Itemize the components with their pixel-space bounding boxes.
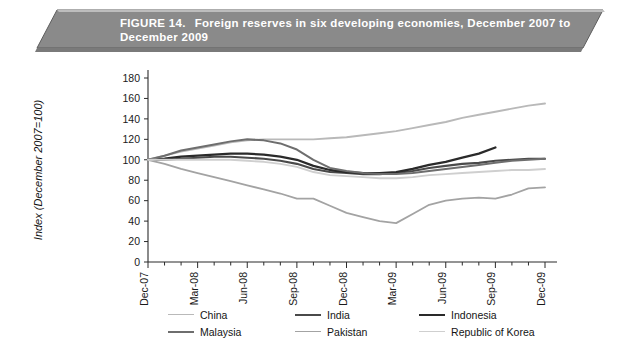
y-tick-label: 120: [122, 133, 140, 145]
y-axis-title: Index (December 2007=100): [32, 99, 44, 240]
legend-item-china: China: [168, 309, 295, 321]
chart-plot-region: 020406080100120140160180Dec-07Mar-08Jun-…: [0, 60, 623, 310]
x-tick-label: Mar-09: [386, 272, 398, 305]
y-tick-label: 140: [122, 113, 140, 125]
x-tick-label: Dec-09: [535, 272, 547, 306]
y-tick-label: 180: [122, 72, 140, 84]
legend-item-indonesia: Indonesia: [419, 309, 568, 321]
legend-item-malaysia: Malaysia: [168, 326, 295, 338]
legend-swatch-icon: [295, 331, 321, 332]
legend-label: Pakistan: [327, 326, 367, 338]
legend-label: India: [327, 309, 350, 321]
x-tick-label: Dec-08: [337, 272, 349, 306]
legend-swatch-icon: [168, 331, 194, 333]
legend-item-republic-of-korea: Republic of Korea: [419, 326, 568, 338]
banner-text: FIGURE 14.Foreign reserves in six develo…: [120, 16, 580, 44]
line-chart: 020406080100120140160180Dec-07Mar-08Jun-…: [0, 60, 623, 310]
legend-row: ChinaIndiaIndonesia: [168, 306, 568, 323]
legend-swatch-icon: [295, 314, 321, 316]
y-tick-label: 60: [128, 194, 140, 206]
y-tick-label: 80: [128, 174, 140, 186]
legend-label: China: [200, 309, 227, 321]
series-line-pakistan: [148, 160, 545, 223]
x-tick-label: Jun-08: [237, 272, 249, 304]
legend-label: Republic of Korea: [451, 326, 534, 338]
legend-label: Malaysia: [200, 326, 241, 338]
y-tick-label: 20: [128, 235, 140, 247]
x-tick-label: Sep-09: [485, 272, 497, 306]
y-tick-label: 100: [122, 154, 140, 166]
x-tick-label: Dec-07: [138, 272, 150, 306]
legend-label: Indonesia: [451, 309, 497, 321]
y-tick-label: 40: [128, 215, 140, 227]
figure-title: Foreign reserves in six developing econo…: [120, 17, 571, 43]
y-tick-label: 160: [122, 92, 140, 104]
y-tick-label: 0: [134, 256, 140, 268]
chart-legend: ChinaIndiaIndonesiaMalaysiaPakistanRepub…: [168, 306, 568, 340]
legend-item-pakistan: Pakistan: [295, 326, 419, 338]
x-tick-label: Mar-08: [188, 272, 200, 305]
figure-number: FIGURE 14.: [120, 17, 186, 29]
x-tick-label: Jun-09: [436, 272, 448, 304]
legend-row: MalaysiaPakistanRepublic of Korea: [168, 323, 568, 340]
legend-swatch-icon: [168, 314, 194, 315]
x-tick-label: Sep-08: [287, 272, 299, 306]
legend-item-india: India: [295, 309, 419, 321]
legend-swatch-icon: [419, 314, 445, 316]
legend-swatch-icon: [419, 331, 445, 332]
figure-banner: FIGURE 14.Foreign reserves in six develo…: [35, 8, 605, 54]
